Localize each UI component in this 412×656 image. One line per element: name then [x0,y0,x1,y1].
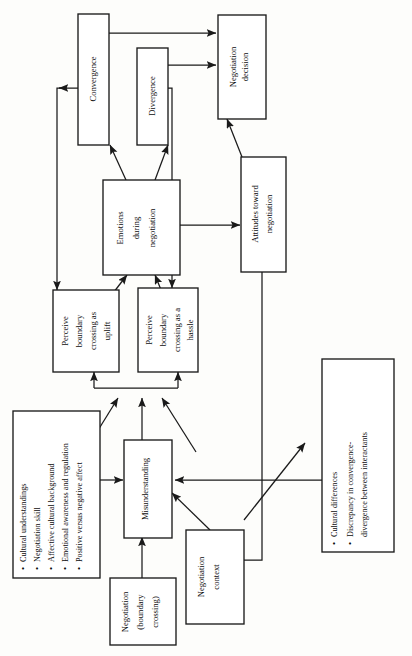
factors-bullet-0: Cultural understandings [19,484,28,562]
factors-bullet-dot-4: • [74,567,84,570]
boundary-line1: Negotiation [120,591,130,632]
emotions-line3: negotiation [147,208,157,247]
emotions-line2: during [131,216,141,239]
context-line2: context [211,564,221,590]
node-convergence[interactable]: Convergence [78,14,109,145]
boundary-line2: (boundary [135,594,145,630]
attitudes-line1: Attitudes toward [250,185,260,243]
cultural-bullet-1-cont: divergence between interactants [360,432,369,537]
factors-bullet-dot-0: • [18,567,28,570]
edge-emotions-to-convergence [110,145,126,180]
node-individual-factors-list[interactable]: • Cultural understandings • Negotiation … [13,411,100,578]
edge-emotions-to-divergence [155,145,168,180]
edge-context-to-cultural [244,443,305,520]
node-negotiation-boundary-crossing[interactable]: Negotiation (boundary crossing) [110,578,176,645]
edge-context-to-misunderstanding [172,493,210,530]
factors-bullet-4: Positive versus negative affect [75,462,84,562]
convergence-label: Convergence [88,56,98,101]
node-cultural-differences-list[interactable]: • Cultural differences • Discrepancy in … [322,359,394,552]
node-perceive-boundary-crossing-uplift[interactable]: Perceive boundary crossing as uplift [53,290,119,372]
factors-bullet-1: Negotiation skill [33,506,42,562]
cultural-bullet-1: Discrepancy in convergence- [346,441,355,537]
node-negotiation-context[interactable]: Negotiation context [186,530,244,624]
node-attitudes-toward-negotiation[interactable]: Attitudes toward negotiation [241,157,286,272]
diagram-svg: Convergence Divergence Negotiation decis… [0,0,412,656]
node-divergence[interactable]: Divergence [137,48,168,145]
diagram-canvas: Convergence Divergence Negotiation decis… [0,0,412,656]
node-negotiation-decision[interactable]: Negotiation decision [218,15,266,119]
cultural-bullet-dot-0: • [329,542,339,545]
negotiation-decision-line1: Negotiation [228,46,238,87]
edge-attitudes-to-decision [227,119,242,157]
attitudes-line2: negotiation [264,194,274,233]
hassle-line3: crossing as a [172,308,182,352]
uplift-line2: boundary [74,314,84,347]
hassle-line2: boundary [158,313,168,346]
node-emotions-during-negotiation[interactable]: Emotions during negotiation [103,180,180,275]
node-misunderstanding[interactable]: Misunderstanding [124,440,172,538]
factors-bullet-dot-2: • [46,567,56,570]
misunderstanding-label: Misunderstanding [140,457,150,520]
factors-bullet-2: Affective cultural background [47,463,56,562]
node-perceive-boundary-crossing-hassle[interactable]: Perceive boundary crossing as a hassle [138,288,198,372]
uplift-line3: crossing as [88,311,98,350]
hassle-line1: Perceive [144,315,154,345]
edge-attitudes-down-to-context [218,272,262,560]
cultural-bullet-dot-1: • [345,542,355,545]
emotions-line1: Emotions [115,211,125,245]
negotiation-decision-line2: decision [240,52,250,81]
divergence-label: Divergence [147,76,157,116]
cultural-bullet-0: Cultural differences [330,472,339,537]
factors-bullet-dot-3: • [60,567,70,570]
factors-bullet-3: Emotional awareness and regulation [61,443,70,562]
uplift-line1: Perceive [60,316,70,346]
uplift-line4: uplift [102,321,112,340]
factors-bullet-dot-1: • [32,567,42,570]
hassle-line4: hassle [185,319,195,340]
context-line1: Negotiation [196,556,206,597]
boundary-line3: crossing) [150,596,160,628]
